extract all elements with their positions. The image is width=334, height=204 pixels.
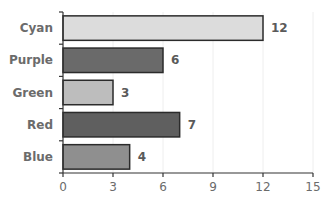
value-label: 6	[171, 53, 179, 67]
category-labels: CyanPurpleGreenRedBlue	[9, 21, 53, 164]
x-tick-label: 12	[255, 180, 270, 194]
category-label: Green	[12, 86, 53, 100]
bar-chart: 03691215 CyanPurpleGreenRedBlue 126374	[0, 0, 334, 204]
x-ticks: 03691215	[59, 173, 320, 194]
bar-blue	[63, 145, 130, 169]
bar-green	[63, 80, 113, 104]
x-tick-label: 9	[209, 180, 217, 194]
x-tick-label: 6	[159, 180, 167, 194]
x-tick-label: 0	[59, 180, 67, 194]
bar-purple	[63, 48, 163, 72]
category-label: Cyan	[20, 21, 53, 35]
value-label: 3	[121, 86, 129, 100]
x-tick-label: 15	[305, 180, 320, 194]
value-label: 7	[188, 118, 196, 132]
bar-red	[63, 112, 180, 136]
value-label: 12	[271, 21, 288, 35]
category-label: Red	[27, 118, 53, 132]
bar-cyan	[63, 16, 263, 40]
category-label: Blue	[23, 150, 53, 164]
category-label: Purple	[9, 53, 53, 67]
x-tick-label: 3	[109, 180, 117, 194]
value-label: 4	[138, 150, 146, 164]
